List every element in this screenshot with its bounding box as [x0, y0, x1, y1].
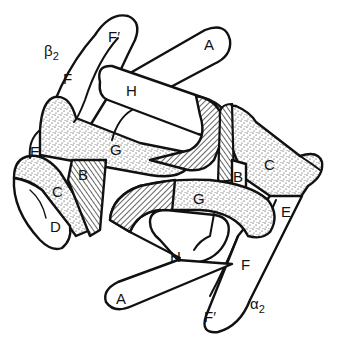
label-alpha2: α2: [250, 295, 265, 315]
label-alpha2-B: B: [233, 168, 243, 185]
label-beta2-C: C: [52, 183, 63, 200]
diagram-svg: β2 F′ A F H G E B C D C B G E H F A F′ α…: [0, 0, 339, 343]
label-alpha2-H: H: [170, 248, 181, 265]
label-alpha2-C: C: [264, 156, 275, 173]
label-beta2-F: F: [63, 70, 72, 87]
label-beta2-E: E: [30, 143, 40, 160]
hemoglobin-diagram: β2 F′ A F H G E B C D C B G E H F A F′ α…: [0, 0, 339, 343]
label-alpha2-F: F: [241, 256, 250, 273]
label-beta2-B: B: [78, 166, 88, 183]
label-beta2-H: H: [126, 82, 137, 99]
alpha2-helix-H: [150, 210, 229, 263]
label-beta2: β2: [44, 42, 59, 62]
label-beta2-D: D: [50, 218, 61, 235]
label-beta2-Fprime: F′: [108, 28, 120, 45]
label-alpha2-A: A: [116, 290, 126, 307]
label-beta2-G: G: [110, 141, 122, 158]
label-alpha2-Fprime: F′: [204, 308, 216, 325]
label-alpha2-E: E: [281, 203, 291, 220]
label-alpha2-G: G: [193, 190, 205, 207]
label-beta2-A: A: [204, 36, 214, 53]
